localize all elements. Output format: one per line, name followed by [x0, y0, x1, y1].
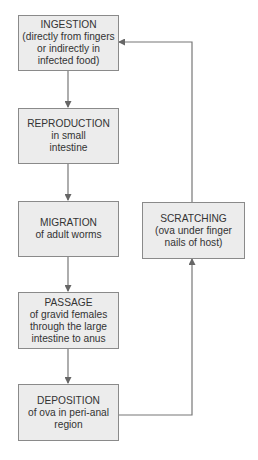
node-desc-line: (ova under finger — [155, 225, 232, 237]
node-passage: PASSAGE of gravid females through the la… — [18, 292, 119, 349]
node-title: REPRODUCTION — [27, 118, 110, 130]
node-scratching: SCRATCHING (ova under finger nails of ho… — [142, 202, 245, 259]
node-desc-line: intestine to anus — [31, 333, 105, 345]
node-desc-line: infected food) — [38, 55, 100, 67]
node-title: MIGRATION — [40, 217, 97, 229]
node-reproduction: REPRODUCTION in small intestine — [18, 108, 119, 164]
node-title: INGESTION — [40, 19, 96, 31]
node-desc-line: in small — [51, 130, 86, 142]
node-title: SCRATCHING — [160, 213, 227, 225]
node-desc-line: intestine — [50, 142, 88, 154]
node-desc-line: nails of host) — [165, 237, 223, 249]
arrow-scratching-to-ingestion — [119, 42, 192, 202]
node-desc-line: (directly from fingers — [22, 31, 114, 43]
arrow-deposition-to-scratching — [118, 259, 192, 415]
node-title: DEPOSITION — [37, 395, 100, 407]
node-desc-line: of adult worms — [35, 229, 101, 241]
node-migration: MIGRATION of adult worms — [18, 201, 119, 257]
node-desc-line: of ova in peri-anal — [28, 407, 109, 419]
node-desc-line: or indirectly in — [37, 43, 100, 55]
node-desc-line: through the large — [30, 321, 107, 333]
node-deposition: DEPOSITION of ova in peri-anal region — [18, 384, 119, 441]
node-ingestion: INGESTION (directly from fingers or indi… — [18, 15, 119, 71]
node-desc-line: region — [54, 419, 82, 431]
node-desc-line: of gravid females — [30, 309, 108, 321]
node-title: PASSAGE — [45, 297, 93, 309]
